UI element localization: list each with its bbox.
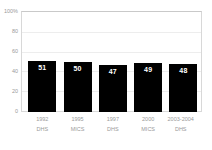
bars-group: 51 50 47 49 48	[21, 11, 202, 112]
bar-chart: 100% 80 60 40 20 0 51 50 47 49	[0, 0, 212, 150]
bar-slot: 50	[64, 11, 92, 112]
bar[interactable]: 50	[64, 62, 92, 113]
bar-value-label: 51	[28, 64, 56, 72]
bar-value-label: 50	[64, 65, 92, 73]
y-tick-label: 40	[0, 68, 18, 74]
y-tick-label: 100%	[0, 8, 18, 14]
bar-slot: 48	[169, 11, 197, 112]
bar-slot: 47	[99, 11, 127, 112]
bar-value-label: 48	[169, 67, 197, 75]
x-axis: 1992 DHS 1995 MICS 1997 DHS 2000 MICS 20…	[21, 114, 202, 144]
x-tick-year: 2003-2004	[159, 114, 202, 124]
bar[interactable]: 48	[169, 64, 197, 112]
bar[interactable]: 47	[99, 65, 127, 112]
bar[interactable]: 51	[28, 61, 56, 113]
y-tick-label: 80	[0, 28, 18, 34]
bar-slot: 49	[134, 11, 162, 112]
y-tick-label: 60	[0, 48, 18, 54]
x-tick-label: 2003-2004 DHS	[159, 114, 202, 134]
y-tick-label: 20	[0, 88, 18, 94]
bar-slot: 51	[28, 11, 56, 112]
bar[interactable]: 49	[134, 63, 162, 112]
bar-value-label: 47	[99, 68, 127, 76]
x-tick-survey: DHS	[159, 124, 202, 134]
chart-title	[0, 0, 212, 1]
y-tick-label: 0	[0, 108, 18, 114]
bar-value-label: 49	[134, 66, 162, 74]
